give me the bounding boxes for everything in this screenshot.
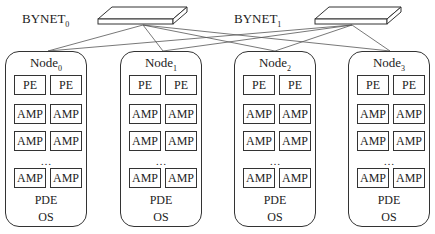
node-1: Node1 PE PE AMP AMP AMP AMP … AMP AMP PD… bbox=[120, 51, 202, 227]
pe-box: PE bbox=[393, 75, 425, 95]
pe-box: PE bbox=[357, 75, 389, 95]
amp-box: AMP bbox=[393, 104, 425, 124]
amp-box: AMP bbox=[129, 104, 161, 124]
amp-box: AMP bbox=[357, 131, 389, 151]
amp-box: AMP bbox=[14, 168, 46, 188]
pe-box: PE bbox=[129, 75, 161, 95]
pde-label: PDE bbox=[121, 193, 201, 208]
bynet1-label: BYNET1 bbox=[234, 11, 281, 29]
node-2: Node2 PE PE AMP AMP AMP AMP … AMP AMP PD… bbox=[234, 51, 316, 227]
pe-box: PE bbox=[279, 75, 311, 95]
amp-box: AMP bbox=[357, 168, 389, 188]
amp-box: AMP bbox=[14, 131, 46, 151]
amp-box: AMP bbox=[243, 168, 275, 188]
network-links bbox=[48, 25, 390, 51]
pde-label: PDE bbox=[235, 193, 315, 208]
ellipsis: … bbox=[6, 157, 86, 165]
os-label: OS bbox=[235, 210, 315, 225]
amp-box: AMP bbox=[243, 131, 275, 151]
amp-box: AMP bbox=[50, 104, 82, 124]
amp-box: AMP bbox=[129, 168, 161, 188]
pe-box: PE bbox=[243, 75, 275, 95]
pe-box: PE bbox=[14, 75, 46, 95]
amp-box: AMP bbox=[279, 131, 311, 151]
amp-box: AMP bbox=[393, 168, 425, 188]
amp-box: AMP bbox=[279, 104, 311, 124]
node-title: Node3 bbox=[349, 55, 429, 73]
amp-box: AMP bbox=[357, 104, 389, 124]
pe-box: PE bbox=[50, 75, 82, 95]
pe-box: PE bbox=[165, 75, 197, 95]
amp-box: AMP bbox=[165, 168, 197, 188]
amp-box: AMP bbox=[50, 131, 82, 151]
node-title: Node2 bbox=[235, 55, 315, 73]
node-3: Node3 PE PE AMP AMP AMP AMP … AMP AMP PD… bbox=[348, 51, 430, 227]
bynet0-switch-icon bbox=[98, 7, 187, 24]
pde-label: PDE bbox=[349, 193, 429, 208]
os-label: OS bbox=[6, 210, 86, 225]
node-title: Node0 bbox=[6, 55, 86, 73]
amp-box: AMP bbox=[14, 104, 46, 124]
amp-box: AMP bbox=[243, 104, 275, 124]
ellipsis: … bbox=[235, 157, 315, 165]
node-title: Node1 bbox=[121, 55, 201, 73]
bynet0-label: BYNET0 bbox=[22, 11, 69, 29]
bynet1-switch-icon bbox=[315, 7, 401, 24]
amp-box: AMP bbox=[50, 168, 82, 188]
amp-box: AMP bbox=[279, 168, 311, 188]
amp-box: AMP bbox=[129, 131, 161, 151]
ellipsis: … bbox=[121, 157, 201, 165]
node-0: Node0 PE PE AMP AMP AMP AMP … AMP AMP PD… bbox=[5, 51, 87, 227]
amp-box: AMP bbox=[165, 104, 197, 124]
pde-label: PDE bbox=[6, 193, 86, 208]
amp-box: AMP bbox=[393, 131, 425, 151]
os-label: OS bbox=[349, 210, 429, 225]
os-label: OS bbox=[121, 210, 201, 225]
amp-box: AMP bbox=[165, 131, 197, 151]
ellipsis: … bbox=[349, 157, 429, 165]
